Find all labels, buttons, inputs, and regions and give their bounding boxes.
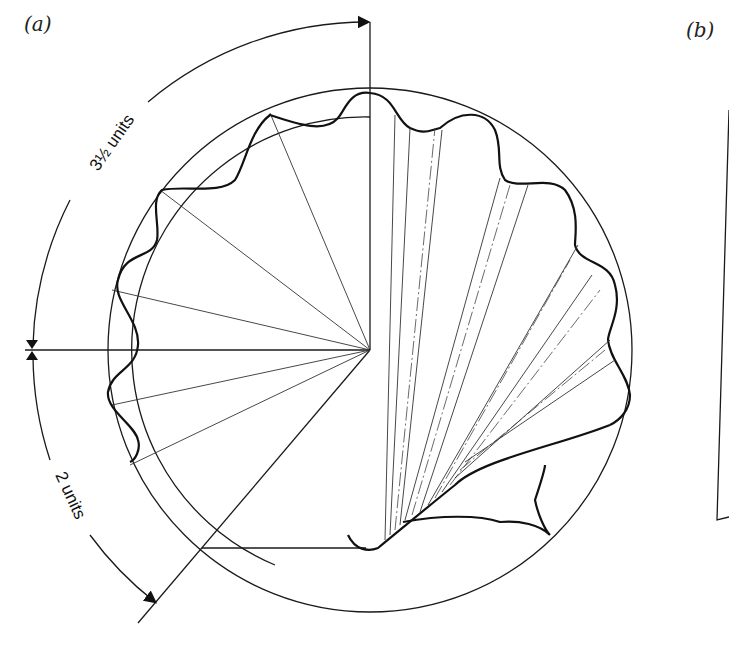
dimension-tick-bottom-icon	[26, 351, 38, 360]
shell-ear-flap	[403, 465, 550, 535]
scalloped-edge-left	[108, 93, 370, 462]
dimension-arc-lower-2	[90, 535, 155, 602]
dimension-arc-upper	[33, 200, 70, 345]
dimension-arc-lower	[33, 356, 50, 460]
dimension-label-lower: 2 units	[51, 469, 89, 522]
shell-construction-diagram: 3½ units 2 units	[0, 0, 729, 655]
panel-b-outline	[717, 110, 729, 520]
shell-rib-lines	[385, 115, 615, 540]
diagonal-line	[138, 350, 370, 623]
dimension-tick-top-icon	[26, 340, 38, 349]
dimension-label-upper: 3½ units	[86, 111, 138, 175]
